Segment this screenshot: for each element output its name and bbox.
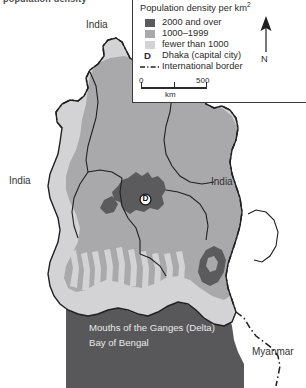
legend-label-border: International border <box>162 61 243 71</box>
cropped-caption-text: population density <box>3 0 123 4</box>
density-low-swatch <box>145 41 155 50</box>
north-arrow-icon <box>253 16 279 56</box>
label-india-north: India <box>86 19 108 30</box>
label-mouths-of-the-ganges: Mouths of the Ganges (Delta) <box>89 322 215 333</box>
legend-label-density-low: fewer than 1000 <box>162 39 229 49</box>
dhaka-marker-letter: D <box>139 192 152 205</box>
scale-label-end: 500 <box>196 76 209 85</box>
legend-title: Population density per km2 <box>140 3 251 13</box>
north-arrow-label: N <box>261 54 268 64</box>
label-bay-of-bengal: Bay of Bengal <box>89 337 149 348</box>
legend-panel: Population density per km2 2000 and over… <box>132 0 306 103</box>
north-arrow: N <box>253 16 279 70</box>
legend-label-density-high: 2000 and over <box>162 17 221 27</box>
scale-label-start: 0 <box>139 76 143 85</box>
label-myanmar: Myanmar <box>252 346 294 357</box>
dhaka-capital-marker[interactable]: D <box>139 192 152 205</box>
label-india-west: India <box>9 175 31 186</box>
scale-unit-label: km <box>165 90 176 99</box>
scale-bar: 0 500 km <box>141 78 213 100</box>
density-high-swatch <box>145 19 155 28</box>
legend-capital-key: D <box>144 50 151 61</box>
density-mid-swatch <box>145 30 155 39</box>
international-border-key-icon <box>140 66 161 68</box>
scale-tick-mid <box>174 82 175 89</box>
legend-label-density-mid: 1000–1999 <box>162 28 209 38</box>
figure-map-bangladesh-population-density: population density India India India Mya… <box>0 0 306 388</box>
legend-label-capital: Dhaka (capital city) <box>162 50 241 60</box>
legend-title-text: Population density per km <box>140 3 247 13</box>
label-india-east: India <box>211 176 233 187</box>
legend-title-superscript: 2 <box>247 1 251 8</box>
